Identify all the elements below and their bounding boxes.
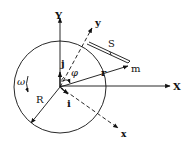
phi-angle-arc [62,77,70,83]
label-i: i [67,98,71,109]
label-Y: Y [54,10,63,21]
label-X: X [173,81,181,92]
label-y: y [94,17,102,28]
label-j: j [60,58,65,69]
label-r: r [101,67,107,78]
label-S: S [108,38,115,49]
label-x: x [121,129,127,139]
diagram-canvas: Y X y x j i φ r m S R ω [0,0,186,146]
label-phi: φ [71,67,78,78]
omega-rotation-arrow [27,76,29,92]
label-R: R [36,94,44,105]
R-vector [31,87,60,123]
label-m: m [131,63,141,74]
label-omega: ω [17,76,25,87]
unit-vector-i [61,88,68,94]
